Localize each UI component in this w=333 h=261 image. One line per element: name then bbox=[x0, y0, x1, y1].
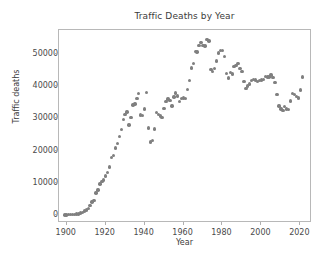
data-point bbox=[102, 178, 105, 181]
x-tick-label: 2000 bbox=[240, 228, 280, 237]
data-point bbox=[197, 44, 200, 47]
data-point bbox=[273, 81, 276, 84]
chart-title: Traffic Deaths by Year bbox=[58, 11, 311, 21]
data-point bbox=[96, 188, 99, 191]
plot-area bbox=[58, 29, 311, 222]
data-point bbox=[275, 93, 278, 96]
x-axis-label: Year bbox=[58, 238, 311, 247]
y-tick-mark bbox=[55, 85, 58, 86]
data-point bbox=[215, 59, 218, 62]
x-tick-label: 1940 bbox=[124, 228, 164, 237]
data-point bbox=[170, 104, 173, 107]
data-point bbox=[108, 165, 111, 168]
data-point bbox=[94, 191, 97, 194]
figure-canvas: Traffic Deaths by Year 01000020000300004… bbox=[0, 0, 333, 261]
data-point bbox=[162, 107, 165, 110]
data-point bbox=[240, 70, 243, 73]
data-point bbox=[192, 62, 195, 65]
data-point bbox=[178, 100, 181, 103]
y-tick-label: 10000 bbox=[12, 177, 58, 186]
data-point bbox=[125, 110, 128, 113]
data-point bbox=[289, 99, 292, 102]
data-point bbox=[135, 97, 138, 100]
data-point bbox=[281, 109, 284, 112]
data-point bbox=[116, 142, 119, 145]
data-point bbox=[287, 108, 290, 111]
x-tick-mark bbox=[260, 222, 261, 225]
x-tick-mark bbox=[66, 222, 67, 225]
data-point bbox=[248, 82, 251, 85]
data-point bbox=[186, 88, 189, 91]
data-point bbox=[137, 92, 140, 95]
x-tick-mark bbox=[105, 222, 106, 225]
data-point bbox=[271, 76, 274, 79]
x-tick-mark bbox=[221, 222, 222, 225]
data-point bbox=[211, 70, 214, 73]
data-point bbox=[262, 78, 265, 81]
data-point bbox=[225, 72, 228, 75]
y-tick-label: 0 bbox=[12, 209, 58, 218]
data-point bbox=[223, 55, 226, 58]
x-tick-label: 1960 bbox=[163, 228, 203, 237]
data-point bbox=[207, 39, 210, 42]
data-point bbox=[242, 80, 245, 83]
data-point bbox=[297, 96, 300, 99]
data-point bbox=[188, 79, 191, 82]
y-tick-mark bbox=[55, 214, 58, 215]
data-point bbox=[92, 199, 95, 202]
data-point bbox=[127, 123, 130, 126]
y-tick-mark bbox=[55, 53, 58, 54]
data-point bbox=[151, 139, 154, 142]
data-point bbox=[122, 118, 125, 121]
data-point bbox=[190, 66, 193, 69]
x-tick-label: 1980 bbox=[201, 228, 241, 237]
data-point bbox=[112, 154, 115, 157]
data-point bbox=[231, 72, 234, 75]
data-point bbox=[141, 114, 144, 117]
y-tick-mark bbox=[55, 117, 58, 118]
data-point bbox=[118, 135, 121, 138]
data-point bbox=[236, 62, 239, 65]
data-point bbox=[129, 116, 132, 119]
data-point bbox=[299, 88, 302, 91]
data-point bbox=[106, 171, 109, 174]
data-point bbox=[168, 99, 171, 102]
data-point bbox=[133, 102, 136, 105]
y-axis-label: Traffic deaths bbox=[12, 47, 21, 147]
data-point bbox=[145, 91, 148, 94]
data-point bbox=[172, 95, 175, 98]
x-tick-mark bbox=[183, 222, 184, 225]
data-point bbox=[143, 107, 146, 110]
data-point bbox=[147, 126, 150, 129]
x-tick-label: 1920 bbox=[85, 228, 125, 237]
data-point bbox=[120, 128, 123, 131]
data-point bbox=[184, 97, 187, 100]
data-point bbox=[160, 116, 163, 119]
y-tick-mark bbox=[55, 150, 58, 151]
y-tick-mark bbox=[55, 182, 58, 183]
x-tick-label: 1900 bbox=[46, 228, 86, 237]
x-tick-label: 2020 bbox=[279, 228, 319, 237]
data-point bbox=[153, 127, 156, 130]
data-point bbox=[87, 207, 90, 210]
data-point bbox=[195, 50, 198, 53]
x-tick-mark bbox=[299, 222, 300, 225]
data-point bbox=[104, 174, 107, 177]
data-point bbox=[244, 87, 247, 90]
data-point bbox=[203, 44, 206, 47]
x-tick-mark bbox=[144, 222, 145, 225]
data-point bbox=[176, 94, 179, 97]
data-point bbox=[301, 75, 304, 78]
scatter-points-layer bbox=[59, 30, 310, 221]
data-point bbox=[227, 76, 230, 79]
data-point bbox=[213, 67, 216, 70]
data-point bbox=[114, 146, 117, 149]
data-point bbox=[221, 49, 224, 52]
data-point bbox=[88, 204, 91, 207]
